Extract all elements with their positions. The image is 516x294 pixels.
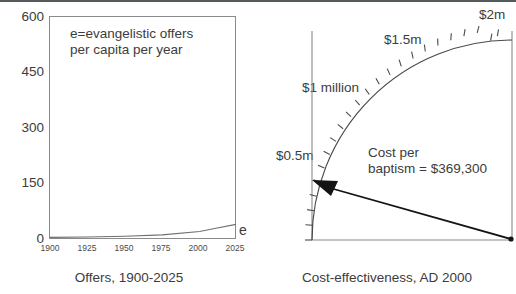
gauge-vector-layer <box>0 0 516 294</box>
gauge-pointer-arrowhead <box>312 180 338 196</box>
gauge-arc <box>312 40 512 240</box>
gauge-pointer <box>312 180 514 242</box>
figure-canvas: 600 450 300 150 0 1900 1925 1950 1975 20… <box>0 0 516 294</box>
gauge-pointer-shaft <box>323 186 511 239</box>
gauge-pointer-pivot <box>508 236 513 241</box>
